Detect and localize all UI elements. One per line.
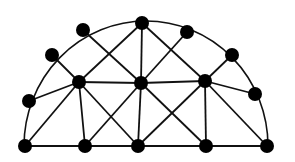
node-I	[135, 16, 149, 30]
edge-B-N	[85, 83, 141, 146]
node-H	[76, 23, 90, 37]
edge-N-O	[141, 81, 205, 83]
node-N	[134, 76, 148, 90]
edge-M-N	[79, 82, 141, 83]
node-G	[45, 48, 59, 62]
edge-M-C	[79, 82, 138, 146]
edge-N-C	[138, 83, 141, 146]
edge-O-L	[205, 81, 255, 94]
node-F	[22, 94, 36, 108]
edge-I-N	[141, 23, 142, 83]
node-B	[78, 139, 92, 153]
node-group	[18, 16, 274, 153]
edge-O-D	[205, 81, 206, 146]
node-J	[180, 25, 194, 39]
node-C	[131, 139, 145, 153]
edge-H-N	[83, 30, 141, 83]
node-M	[72, 75, 86, 89]
node-D	[199, 139, 213, 153]
graph-diagram	[0, 0, 295, 162]
node-K	[225, 48, 239, 62]
edge-M-B	[79, 82, 85, 146]
node-A	[18, 139, 32, 153]
node-E	[260, 139, 274, 153]
edge-N-D	[141, 83, 206, 146]
node-L	[248, 87, 262, 101]
node-O	[198, 74, 212, 88]
